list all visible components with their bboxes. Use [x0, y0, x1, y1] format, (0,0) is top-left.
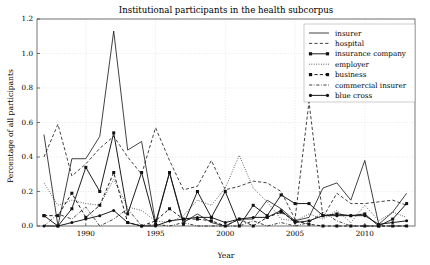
legend-label: insurer: [335, 29, 362, 38]
data-point: [112, 131, 115, 134]
data-point: [196, 190, 199, 193]
figure-container: Institutional participants in the health…: [0, 0, 430, 265]
legend-marker: [326, 52, 329, 55]
data-point: [154, 225, 157, 228]
data-point: [252, 225, 255, 228]
x-tick-label: 1990: [77, 229, 96, 238]
data-point: [391, 218, 394, 221]
y-tick-label: 0.0: [22, 221, 34, 230]
data-point: [210, 219, 213, 222]
legend-marker: [326, 94, 329, 97]
legend-marker: [326, 73, 329, 76]
data-point: [224, 190, 227, 193]
data-point: [377, 223, 380, 226]
data-point: [42, 225, 45, 228]
data-point: [405, 219, 408, 222]
x-tick-label: 1995: [146, 229, 165, 238]
data-point: [42, 214, 45, 217]
chart-title: Institutional participants in the health…: [119, 5, 333, 15]
data-point: [196, 216, 199, 219]
data-point: [294, 221, 297, 224]
data-point: [154, 219, 157, 222]
x-tick-label: 2005: [286, 229, 305, 238]
data-point: [307, 219, 310, 222]
data-point: [405, 202, 408, 205]
data-point: [140, 171, 143, 174]
x-tick-label: 2000: [216, 229, 235, 238]
data-point: [210, 216, 213, 219]
data-point: [98, 214, 101, 217]
y-tick-label: 0.4: [22, 152, 34, 161]
data-point: [98, 204, 101, 207]
data-point: [252, 216, 255, 219]
data-point: [168, 171, 171, 174]
data-point: [349, 214, 352, 217]
data-point: [140, 225, 143, 228]
data-point: [84, 218, 87, 221]
y-tick-label: 1.0: [22, 49, 34, 58]
data-point: [280, 193, 283, 196]
data-point: [126, 212, 129, 215]
data-point: [252, 204, 255, 207]
data-point: [266, 216, 269, 219]
data-point: [307, 202, 310, 205]
chart-canvas: Institutional participants in the health…: [0, 0, 430, 265]
data-point: [168, 219, 171, 222]
legend-marker: [309, 73, 312, 76]
data-point: [391, 221, 394, 224]
data-point: [126, 221, 129, 224]
data-point: [182, 223, 185, 226]
y-tick-label: 0.2: [22, 187, 33, 196]
legend-label: employer: [335, 60, 370, 69]
data-point: [112, 209, 115, 212]
data-point: [280, 209, 283, 212]
data-point: [168, 207, 171, 210]
legend-label: hospital: [335, 39, 365, 48]
legend-marker: [309, 94, 312, 97]
legend-label: commercial insurer: [335, 81, 407, 90]
data-point: [84, 166, 87, 169]
data-point: [70, 192, 73, 195]
y-tick-label: 1.2: [22, 14, 33, 23]
x-tick-label: 2010: [356, 229, 375, 238]
data-point: [112, 171, 115, 174]
x-axis-label: Year: [216, 251, 234, 260]
y-axis-label: Percentage of all participants: [6, 69, 15, 183]
data-point: [56, 225, 59, 228]
chart-legend: insurerhospitalinsurance companyemployer…: [304, 24, 415, 102]
data-point: [307, 223, 310, 226]
data-point: [321, 214, 324, 217]
y-tick-label: 0.8: [22, 83, 34, 92]
legend-label: insurance company: [335, 49, 407, 58]
legend-marker: [309, 52, 312, 55]
data-point: [363, 214, 366, 217]
data-point: [363, 225, 366, 228]
y-tick-label: 0.6: [22, 118, 34, 127]
data-point: [70, 207, 73, 210]
data-point: [238, 218, 241, 221]
data-point: [98, 190, 101, 193]
data-point: [335, 225, 338, 228]
data-point: [321, 225, 324, 228]
data-point: [335, 214, 338, 217]
legend-label: business: [335, 70, 367, 79]
data-point: [224, 221, 227, 224]
legend-label: blue cross: [335, 91, 373, 100]
data-point: [182, 218, 185, 221]
data-point: [70, 221, 73, 224]
data-point: [294, 202, 297, 205]
